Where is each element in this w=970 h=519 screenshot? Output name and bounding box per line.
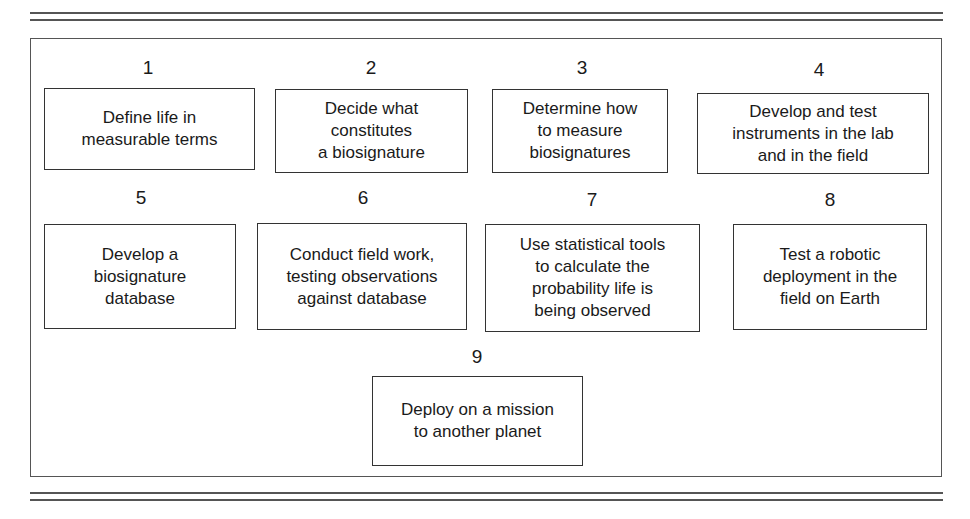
step-4-box: Develop and test instruments in the lab …	[697, 93, 929, 174]
step-5-box: Develop a biosignature database	[44, 224, 236, 329]
step-6-number: 6	[333, 188, 393, 208]
top-rule-2	[30, 19, 943, 21]
step-8-number: 8	[800, 190, 860, 210]
step-9-box: Deploy on a mission to another planet	[372, 376, 583, 466]
step-7-box: Use statistical tools to calculate the p…	[485, 224, 700, 332]
step-8-box: Test a robotic deployment in the field o…	[733, 224, 927, 330]
step-7-number: 7	[562, 190, 622, 210]
step-2-box: Decide what constitutes a biosignature	[275, 89, 468, 173]
top-rule-1	[30, 12, 943, 14]
step-9-number: 9	[447, 347, 507, 367]
bottom-rule-2	[30, 499, 943, 501]
step-5-number: 5	[111, 188, 171, 208]
step-3-box: Determine how to measure biosignatures	[492, 89, 668, 173]
step-6-box: Conduct field work, testing observations…	[257, 223, 467, 330]
bottom-rule-1	[30, 492, 943, 494]
step-3-number: 3	[552, 58, 612, 78]
step-4-number: 4	[789, 60, 849, 80]
step-1-number: 1	[118, 58, 178, 78]
step-1-box: Define life in measurable terms	[44, 88, 255, 170]
step-2-number: 2	[341, 58, 401, 78]
